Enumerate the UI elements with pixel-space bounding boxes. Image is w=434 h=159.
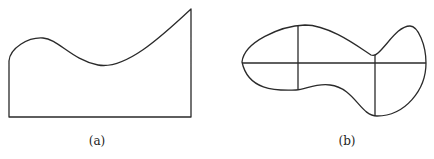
- panel-a-shape: [9, 9, 191, 117]
- panel-a-boundary: [9, 9, 191, 117]
- figure-canvas: [0, 0, 434, 159]
- panel-a-caption: (a): [89, 134, 106, 148]
- panel-b-shape: [242, 25, 426, 116]
- panel-b-boundary: [242, 25, 426, 116]
- panel-b-caption: (b): [338, 134, 355, 148]
